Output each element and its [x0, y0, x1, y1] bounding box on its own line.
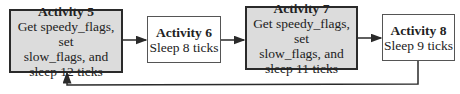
activity-8-title: Activity 8 [391, 23, 447, 38]
activity-5-title: Activity 5 [38, 4, 94, 19]
activity-6-box: Activity 6 Sleep 8 ticks [147, 16, 221, 63]
activity-5-box: Activity 5 Get speedy_flags, set slow_fl… [9, 9, 123, 73]
activity-5-line: sleep 12 ticks [29, 64, 103, 79]
activity-6-line: Sleep 8 ticks [150, 40, 219, 55]
activity-7-box: Activity 7 Get speedy_flags, set slow_fl… [245, 6, 358, 70]
activity-7-line: sleep 11 ticks [265, 61, 338, 76]
activity-7-line: Get speedy_flags, set [247, 16, 356, 46]
activity-6-title: Activity 6 [156, 25, 212, 40]
activity-7-title: Activity 7 [274, 1, 330, 16]
activity-8-box: Activity 8 Sleep 9 ticks [382, 14, 455, 61]
activity-5-line: Get speedy_flags, set [11, 19, 121, 49]
activity-8-line: Sleep 9 ticks [384, 38, 453, 53]
activity-7-line: slow_flags, and [259, 46, 344, 61]
activity-5-line: slow_flags, and [24, 49, 109, 64]
